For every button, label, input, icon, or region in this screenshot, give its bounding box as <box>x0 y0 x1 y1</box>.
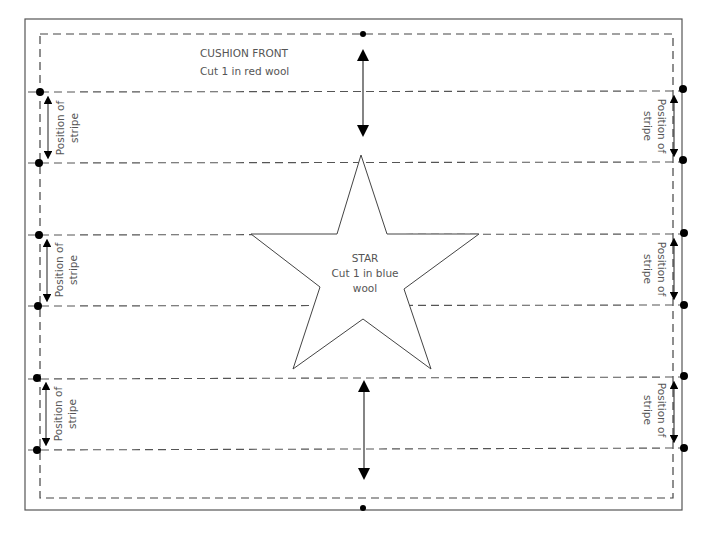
right-markers <box>679 85 688 452</box>
marker-dot <box>679 85 687 93</box>
pattern-subtitle: Cut 1 in red wool <box>200 65 289 77</box>
svg-text:stripe: stripe <box>642 111 654 141</box>
marker-dot <box>33 374 41 382</box>
marker-dot <box>680 301 688 309</box>
marker-dot <box>680 229 688 237</box>
star-label-line1: STAR <box>352 252 379 264</box>
right-stripe-label-2: Position of stripe <box>642 242 668 297</box>
svg-text:stripe: stripe <box>66 399 78 429</box>
svg-text:stripe: stripe <box>67 255 79 285</box>
marker-dot <box>679 156 687 164</box>
svg-text:Position of: Position of <box>52 387 64 442</box>
stripe-3-top-line <box>28 377 686 379</box>
stripe-1-bottom-line <box>28 162 686 163</box>
svg-text:Position of: Position of <box>656 242 668 297</box>
bottom-center-dot <box>360 505 366 511</box>
marker-dot <box>35 231 43 239</box>
marker-dot <box>680 444 688 452</box>
left-stripe-arrows <box>46 100 48 442</box>
marker-dot <box>680 372 688 380</box>
left-stripe-label-1: Position of stripe <box>54 101 80 156</box>
svg-text:stripe: stripe <box>68 113 80 143</box>
top-center-dot <box>360 31 366 37</box>
svg-text:Position of: Position of <box>656 383 668 438</box>
right-stripe-label-3: Position of stripe <box>642 383 668 438</box>
svg-text:Position of: Position of <box>54 101 66 156</box>
stripe-3-bottom-line <box>28 448 686 450</box>
marker-dot <box>35 159 43 167</box>
cushion-pattern-diagram: CUSHION FRONT Cut 1 in red wool STAR Cut… <box>0 0 715 542</box>
svg-text:stripe: stripe <box>642 254 654 284</box>
left-markers <box>33 88 44 454</box>
right-stripe-label-1: Position of stripe <box>642 99 668 154</box>
marker-dot <box>36 88 44 96</box>
marker-dot <box>34 302 42 310</box>
svg-text:Position of: Position of <box>53 243 65 298</box>
left-stripe-label-3: Position of stripe <box>52 387 78 442</box>
svg-text:Position of: Position of <box>656 99 668 154</box>
pattern-title: CUSHION FRONT <box>200 47 289 59</box>
left-stripe-label-2: Position of stripe <box>53 243 79 298</box>
star-label-line3: wool <box>353 282 377 294</box>
star-label-line2: Cut 1 in blue <box>331 267 398 279</box>
stripe-1-top-line <box>28 91 686 92</box>
marker-dot <box>33 446 41 454</box>
svg-text:stripe: stripe <box>642 395 654 425</box>
